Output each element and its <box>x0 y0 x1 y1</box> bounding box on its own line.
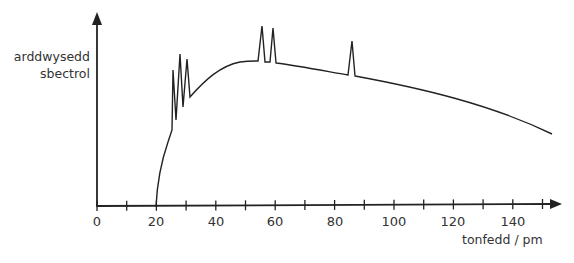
tick-label-40: 40 <box>208 214 225 229</box>
spectrum-chart: 0 20 40 60 80 100 120 140 <box>0 0 574 263</box>
tick-label-0: 0 <box>93 214 101 229</box>
y-axis-arrow-icon <box>92 12 102 25</box>
tick-label-100: 100 <box>382 214 407 229</box>
x-axis-arrow-icon <box>550 199 562 209</box>
tick-label-140: 140 <box>501 214 526 229</box>
tick-label-80: 80 <box>327 214 344 229</box>
tick-label-60: 60 <box>267 214 284 229</box>
tick-label-120: 120 <box>441 214 466 229</box>
tick-label-20: 20 <box>148 214 165 229</box>
x-tick-labels: 0 20 40 60 80 100 120 140 <box>93 214 526 229</box>
spectrum-line <box>156 26 552 207</box>
